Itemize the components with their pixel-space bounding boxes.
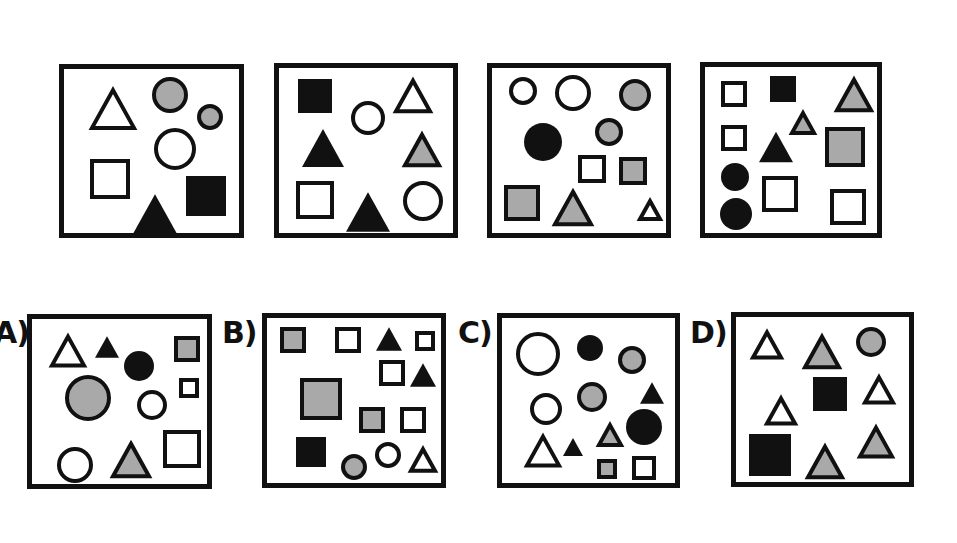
white-triangle-icon xyxy=(52,337,84,366)
white-circle-icon xyxy=(156,130,194,168)
gray-circle-icon xyxy=(620,348,644,372)
shape-canvas xyxy=(64,69,239,233)
option-a-label[interactable]: A) xyxy=(0,318,29,348)
white-circle-icon xyxy=(557,77,589,109)
black-circle-icon xyxy=(720,198,752,230)
gray-circle-icon xyxy=(199,106,221,128)
black-triangle-icon xyxy=(376,327,402,350)
white-triangle-icon xyxy=(527,437,559,466)
white-square-icon xyxy=(181,380,197,396)
shape-canvas xyxy=(267,318,441,483)
white-circle-icon xyxy=(405,183,441,219)
white-square-icon xyxy=(417,333,433,349)
option-d-label[interactable]: D) xyxy=(690,318,727,348)
gray-circle-icon xyxy=(579,384,605,410)
black-square-icon xyxy=(813,377,847,411)
shape-canvas xyxy=(502,318,675,483)
black-triangle-icon xyxy=(346,192,390,232)
white-triangle-icon xyxy=(865,377,893,402)
option-b-panel[interactable] xyxy=(262,313,446,488)
option-b-label[interactable]: B) xyxy=(222,318,257,348)
black-square-icon xyxy=(298,79,332,113)
white-circle-icon xyxy=(511,79,535,103)
seq-3-panel xyxy=(487,63,671,238)
gray-circle-icon xyxy=(67,377,109,419)
white-square-icon xyxy=(381,362,403,384)
gray-square-icon xyxy=(599,461,615,477)
white-square-icon xyxy=(832,191,864,223)
seq-4-panel xyxy=(700,62,882,238)
white-circle-icon xyxy=(377,444,399,466)
shape-canvas xyxy=(705,67,877,233)
gray-square-icon xyxy=(282,329,304,351)
black-triangle-icon xyxy=(563,438,583,456)
white-square-icon xyxy=(298,183,332,217)
white-circle-icon xyxy=(139,392,165,418)
white-triangle-icon xyxy=(640,201,660,219)
gray-triangle-icon xyxy=(599,425,621,445)
black-square-icon xyxy=(296,437,326,467)
white-circle-icon xyxy=(518,334,558,374)
option-c-label[interactable]: C) xyxy=(458,318,492,348)
gray-triangle-icon xyxy=(837,80,871,111)
gray-square-icon xyxy=(827,129,863,165)
white-square-icon xyxy=(580,157,604,181)
gray-triangle-icon xyxy=(805,337,839,368)
black-circle-icon xyxy=(626,409,662,445)
gray-square-icon xyxy=(361,409,383,431)
black-triangle-icon xyxy=(410,363,436,386)
seq-1-panel xyxy=(59,64,244,238)
option-d-panel[interactable] xyxy=(731,312,914,487)
gray-square-icon xyxy=(506,187,538,219)
gray-triangle-icon xyxy=(405,135,439,166)
black-triangle-icon xyxy=(640,382,664,404)
gray-triangle-icon xyxy=(555,192,591,224)
black-circle-icon xyxy=(124,351,154,381)
shape-canvas xyxy=(32,319,207,484)
white-triangle-icon xyxy=(753,332,781,357)
black-square-icon xyxy=(749,434,791,476)
black-square-icon xyxy=(770,76,796,102)
white-square-icon xyxy=(634,458,654,478)
gray-triangle-icon xyxy=(113,444,149,476)
shape-canvas xyxy=(279,68,453,233)
black-triangle-icon xyxy=(302,129,344,167)
white-square-icon xyxy=(402,409,424,431)
white-square-icon xyxy=(92,161,128,197)
black-circle-icon xyxy=(721,163,749,191)
white-square-icon xyxy=(764,178,796,210)
black-square-icon xyxy=(186,176,226,216)
gray-square-icon xyxy=(621,159,645,183)
seq-2-panel xyxy=(274,63,458,238)
gray-triangle-icon xyxy=(792,113,814,133)
white-square-icon xyxy=(165,432,199,466)
gray-triangle-icon xyxy=(808,447,842,478)
gray-circle-icon xyxy=(621,81,649,109)
gray-circle-icon xyxy=(343,456,365,478)
white-triangle-icon xyxy=(411,449,435,471)
shape-canvas xyxy=(492,68,666,233)
white-triangle-icon xyxy=(92,90,134,128)
black-triangle-icon xyxy=(759,132,793,163)
white-circle-icon xyxy=(532,395,560,423)
black-triangle-icon xyxy=(95,336,119,358)
gray-triangle-icon xyxy=(860,428,892,457)
white-circle-icon xyxy=(353,103,383,133)
white-triangle-icon xyxy=(396,81,430,112)
option-c-panel[interactable] xyxy=(497,313,680,488)
white-square-icon xyxy=(337,329,359,351)
shape-canvas xyxy=(736,317,909,482)
white-square-icon xyxy=(723,83,745,105)
gray-square-icon xyxy=(302,380,340,418)
white-square-icon xyxy=(723,127,745,149)
gray-circle-icon xyxy=(154,79,186,111)
white-triangle-icon xyxy=(767,398,795,423)
gray-circle-icon xyxy=(858,329,884,355)
black-circle-icon xyxy=(577,335,603,361)
black-circle-icon xyxy=(524,123,562,161)
gray-circle-icon xyxy=(597,120,621,144)
white-circle-icon xyxy=(59,449,91,481)
gray-square-icon xyxy=(176,338,198,360)
option-a-panel[interactable] xyxy=(27,314,212,489)
black-triangle-icon xyxy=(133,194,177,233)
